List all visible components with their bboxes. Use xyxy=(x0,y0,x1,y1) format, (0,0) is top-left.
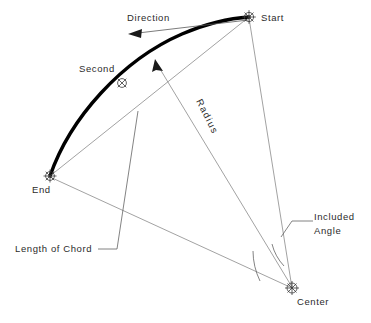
included-angle-arc-inner xyxy=(272,244,284,266)
point-marker-end xyxy=(44,170,57,183)
chord-line xyxy=(50,17,249,176)
label-radius: Radius xyxy=(194,97,221,136)
point-marker-second xyxy=(118,79,127,88)
included-angle-arc-outer xyxy=(253,251,260,281)
radius-line-start xyxy=(249,18,292,288)
label-second: Second xyxy=(79,63,115,74)
label-included: Included xyxy=(314,211,355,222)
diagram-canvas: Start Second End Center Direction Radius… xyxy=(0,0,371,323)
point-marker-center xyxy=(285,281,299,295)
label-direction: Direction xyxy=(127,12,170,23)
direction-arrowhead xyxy=(128,29,142,38)
radius-leader-line xyxy=(157,64,292,287)
label-start: Start xyxy=(261,12,284,23)
label-angle: Angle xyxy=(314,225,341,236)
chord-leader-line xyxy=(98,111,138,249)
point-marker-start xyxy=(242,10,256,24)
arc-direction-arrowhead xyxy=(152,59,163,72)
radius-line-end xyxy=(50,177,292,288)
label-center: Center xyxy=(297,296,329,307)
arc-geometry-diagram: Start Second End Center Direction Radius… xyxy=(0,0,371,323)
included-angle-leader-line xyxy=(281,221,313,237)
label-length-of-chord: Length of Chord xyxy=(15,243,92,254)
label-end: End xyxy=(32,184,51,195)
